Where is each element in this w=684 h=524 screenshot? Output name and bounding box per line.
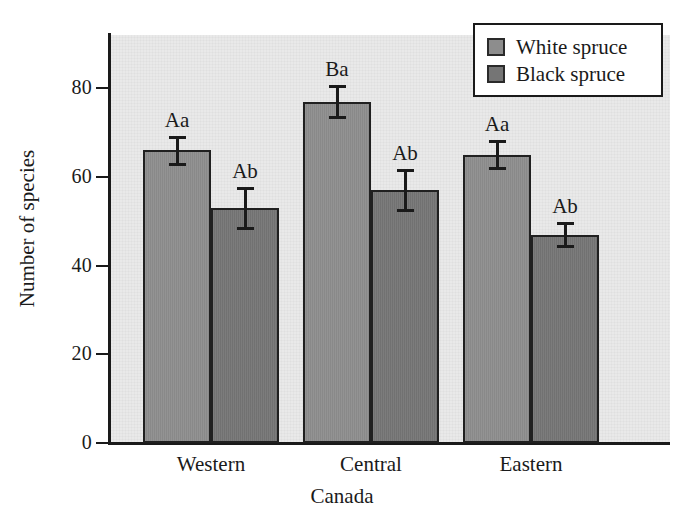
error-bar-cap-lower: [237, 227, 254, 230]
y-axis-tick-label: 20: [34, 343, 92, 363]
bar-fill: [465, 157, 529, 441]
bar-fill: [305, 104, 369, 441]
error-bar-line: [244, 188, 247, 228]
error-bar-cap-upper: [397, 169, 414, 172]
error-bar-cap-lower: [329, 116, 346, 119]
legend-label-white-spruce: White spruce: [516, 36, 627, 58]
error-bar-cap-lower: [397, 209, 414, 212]
legend-box: White spruce Black spruce: [473, 23, 663, 97]
significance-label: Ab: [537, 195, 593, 217]
bar-fill: [533, 237, 597, 441]
bar-central-white-spruce: [303, 102, 371, 443]
bar-eastern-white-spruce: [463, 155, 531, 443]
error-bar-cap-upper: [489, 140, 506, 143]
significance-label: Ab: [217, 160, 273, 182]
y-axis-tick: [96, 442, 109, 444]
y-axis-line: [108, 33, 111, 445]
significance-label: Aa: [469, 113, 525, 135]
error-bar-line: [404, 170, 407, 210]
legend-swatch-black-spruce: [487, 65, 505, 83]
y-axis-tick-label: 60: [34, 166, 92, 186]
error-bar-cap-lower: [557, 245, 574, 248]
error-bar-cap-lower: [489, 167, 506, 170]
bar-western-black-spruce: [211, 208, 279, 443]
bar-western-white-spruce: [143, 150, 211, 443]
y-axis-tick-label: 80: [34, 77, 92, 97]
legend-item-white-spruce: White spruce: [487, 33, 651, 60]
legend-swatch-white-spruce: [487, 38, 505, 56]
significance-label: Aa: [149, 109, 205, 131]
error-bar-line: [496, 141, 499, 168]
bar-eastern-black-spruce: [531, 235, 599, 443]
bar-chart-figure: 806040200 Number of species AaAbBaAbAaAb…: [0, 0, 684, 524]
x-axis-title: Canada: [0, 484, 684, 509]
y-axis-tick-label: 40: [34, 255, 92, 275]
legend-item-black-spruce: Black spruce: [487, 60, 651, 87]
y-axis-tick-label: 0: [34, 432, 92, 452]
x-axis-tick-label-western: Western: [121, 452, 301, 476]
y-axis-tick: [96, 265, 109, 267]
y-axis-tick: [96, 353, 109, 355]
error-bar-cap-upper: [169, 136, 186, 139]
bar-fill: [213, 210, 277, 441]
error-bar-cap-lower: [169, 163, 186, 166]
error-bar-cap-upper: [557, 222, 574, 225]
y-axis-title: Number of species: [15, 109, 40, 349]
error-bar-line: [564, 223, 567, 245]
error-bar-cap-upper: [237, 187, 254, 190]
legend-label-black-spruce: Black spruce: [516, 63, 625, 85]
x-axis-tick-label-eastern: Eastern: [441, 452, 621, 476]
y-axis-tick: [96, 176, 109, 178]
error-bar-line: [176, 137, 179, 164]
x-axis-tick-label-central: Central: [281, 452, 461, 476]
bar-fill: [373, 192, 437, 441]
error-bar-cap-upper: [329, 85, 346, 88]
error-bar-line: [336, 86, 339, 117]
significance-label: Ab: [377, 142, 433, 164]
y-axis-tick: [96, 87, 109, 89]
significance-label: Ba: [309, 58, 365, 80]
bar-central-black-spruce: [371, 190, 439, 443]
bar-fill: [145, 152, 209, 441]
